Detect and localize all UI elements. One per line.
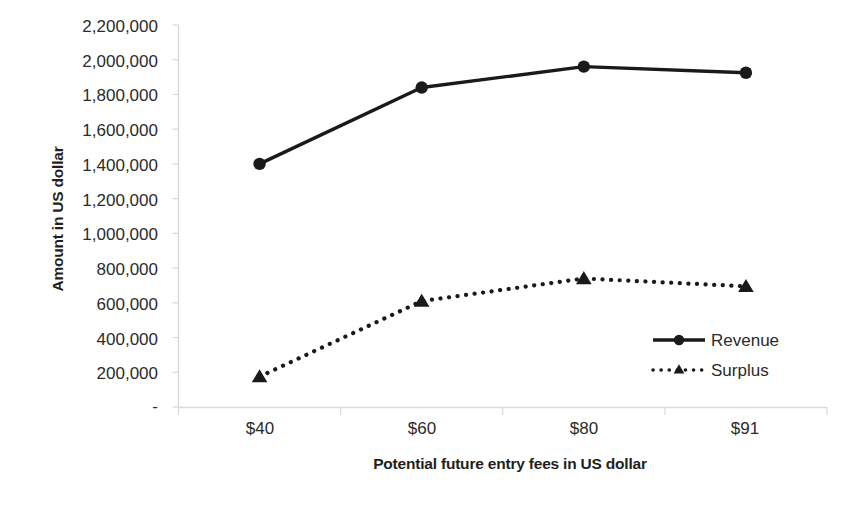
legend-item-surplus: Surplus [651,355,821,385]
legend-label-surplus: Surplus [707,362,769,379]
plot-area [0,0,844,509]
legend-item-revenue: Revenue [651,325,821,355]
legend-sample-solid-line-circle-icon [651,330,707,350]
x-axis-ticks [179,407,828,415]
line-chart: Amount in US dollar 2,200,000 2,000,000 … [0,0,844,509]
series-revenue [253,60,752,170]
y-axis-ticks [173,25,179,407]
legend: Revenue Surplus [651,325,821,385]
legend-sample-dotted-line-triangle-icon [651,360,707,380]
legend-label-revenue: Revenue [707,332,779,349]
